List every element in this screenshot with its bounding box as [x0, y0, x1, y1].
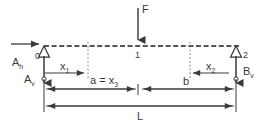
dimension-label-a-text: a = x — [90, 74, 114, 86]
reaction-label-Ah: Ah — [12, 57, 23, 70]
dimension-label-x1-sub: 1 — [66, 67, 70, 74]
reaction-label-Bv-sub: v — [250, 72, 254, 79]
beam-diagram: F 0 1 2 Ah Av Bv x1 x2 a = x3 b L — [0, 0, 269, 130]
reaction-label-Av: Av — [24, 74, 35, 87]
reaction-arrow-Av — [42, 56, 46, 83]
dimension-label-x2: x2 — [206, 61, 215, 74]
force-label-F: F — [142, 4, 149, 15]
dimension-extension-lines — [44, 79, 236, 112]
node-label-1: 1 — [135, 51, 140, 60]
support-triangle-right — [231, 46, 242, 57]
reaction-label-Bv: Bv — [243, 66, 254, 79]
node-label-0: 0 — [35, 52, 40, 61]
dimension-label-a: a = x3 — [90, 75, 118, 88]
dimension-label-x1: x1 — [60, 61, 69, 74]
reaction-label-Av-sub: v — [31, 80, 35, 87]
node-label-2: 2 — [243, 51, 248, 60]
reaction-arrow-Bv — [234, 56, 238, 83]
reaction-label-Ah-sub: h — [19, 63, 23, 70]
support-triangle-left — [39, 46, 50, 57]
dimension-label-L: L — [137, 111, 143, 122]
dimension-label-a-sub: 3 — [114, 81, 118, 88]
dimension-label-b: b — [183, 76, 189, 87]
dimension-label-x2-sub: 2 — [212, 67, 216, 74]
beam-diagram-canvas — [0, 0, 269, 130]
